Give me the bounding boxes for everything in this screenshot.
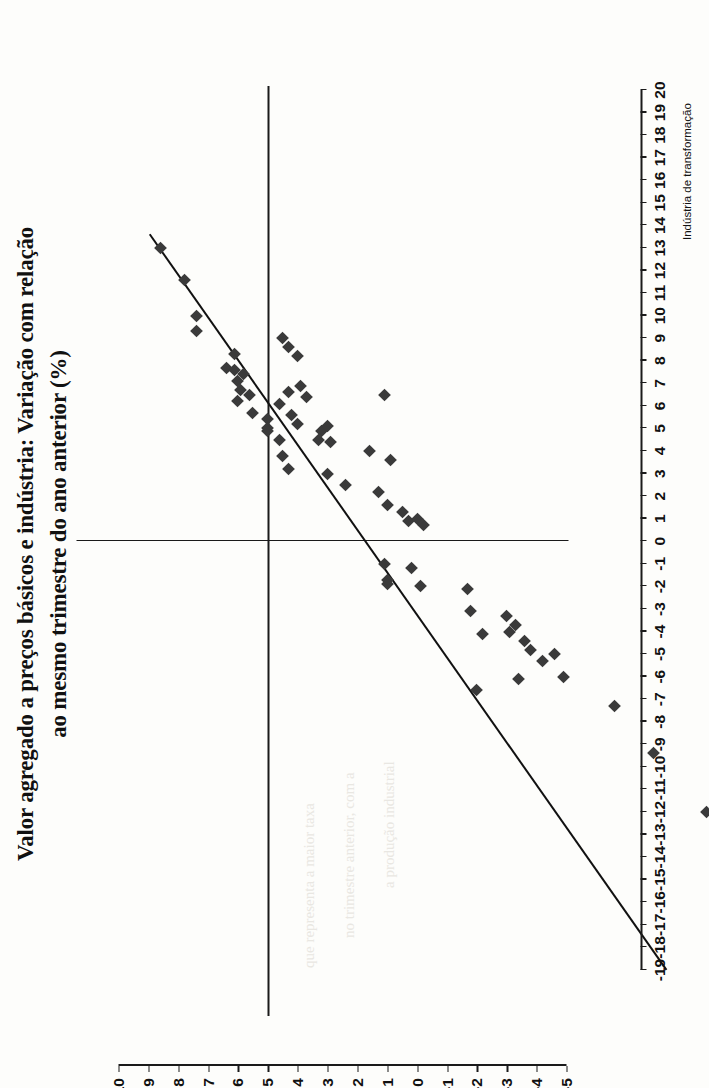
x-tick [640,563,646,564]
x-tick-label: 6 [651,402,667,411]
y-tick [387,1066,388,1072]
x-tick [640,969,646,970]
x-tick [640,337,646,338]
x-tick-label: -13 [651,823,667,845]
vertical-reference-line [76,540,568,542]
x-tick-label: -8 [651,715,667,729]
plot-inner [118,90,566,970]
x-tick [640,721,646,722]
x-tick-label: -17 [651,914,667,936]
x-tick [640,675,646,676]
x-tick [640,292,646,293]
data-point [607,700,620,713]
y-tick-label: -2 [469,1078,485,1088]
x-tick [640,269,646,270]
x-tick [640,382,646,383]
x-tick-label: 17 [651,149,667,166]
y-tick [476,1066,477,1072]
x-tick-label: -7 [651,692,667,706]
data-point [294,379,307,392]
x-tick [640,811,646,812]
data-point [189,325,202,338]
x-tick [640,766,646,767]
x-tick [640,698,646,699]
x-tick [640,202,646,203]
x-tick [640,224,646,225]
data-point [512,673,525,686]
data-point [464,605,477,618]
x-tick [640,585,646,586]
x-tick-label: -9 [651,737,667,751]
y-tick [447,1066,448,1072]
y-tick [118,1066,119,1072]
x-tick [640,179,646,180]
x-tick-label: 4 [651,447,667,456]
data-point [380,499,393,512]
data-point [282,386,295,399]
y-tick [208,1066,209,1072]
y-tick-label: -3 [499,1078,515,1088]
y-tick-label: 4 [289,1078,305,1088]
x-tick-label: 18 [651,127,667,144]
x-tick-label: -1 [651,557,667,571]
x-tick-label: -14 [651,846,667,868]
x-tick [640,495,646,496]
x-tick-label: 13 [651,239,667,256]
y-tick [237,1066,238,1072]
data-point [339,479,352,492]
x-tick-label: 7 [651,379,667,388]
x-tick [640,901,646,902]
data-point [476,627,489,640]
chart-title-line-2: ao mesmo trimestre do ano anterior (%) [41,0,74,1088]
chart-title: Valor agregado a preços básicos e indúst… [8,0,75,1088]
x-tick-label: -11 [651,779,667,801]
y-tick-label: 2 [349,1078,365,1088]
data-point [413,580,426,593]
x-tick [640,89,646,90]
x-tick-label: 20 [651,81,667,98]
data-point [246,406,259,419]
x-tick-label: 12 [651,262,667,279]
data-point [189,309,202,322]
data-point [383,454,396,467]
y-tick [297,1066,298,1072]
x-tick-label: 8 [651,356,667,365]
x-tick-label: -6 [651,670,667,684]
chart-stage: Valor agregado a preços básicos e indúst… [0,0,709,1088]
data-point [282,463,295,476]
y-tick-label: -5 [558,1078,574,1088]
x-tick [640,314,646,315]
x-tick-label: 19 [651,104,667,121]
x-tick-label: 5 [651,424,667,433]
data-point [324,436,337,449]
x-tick [640,924,646,925]
x-tick [640,608,646,609]
y-tick-label: 1 [379,1078,395,1088]
x-tick-label: 16 [651,172,667,189]
x-tick [640,946,646,947]
y-tick [536,1066,537,1072]
y-tick [267,1066,268,1072]
data-point [700,806,709,819]
x-tick [640,111,646,112]
x-tick-label: -18 [651,936,667,958]
x-tick [640,247,646,248]
x-tick [640,517,646,518]
data-point [273,397,286,410]
x-tick-label: 10 [651,307,667,324]
x-tick [640,878,646,879]
data-point [363,445,376,458]
x-tick [640,427,646,428]
data-point [371,485,384,498]
y-tick-label: 3 [319,1078,335,1088]
x-tick-label: -16 [651,891,667,913]
x-tick-label: 9 [651,334,667,343]
data-point [404,562,417,575]
y-tick-label: 9 [140,1078,156,1088]
x-tick [640,450,646,451]
data-point [276,449,289,462]
data-point [461,582,474,595]
x-tick-label: -4 [651,625,667,639]
x-tick [640,833,646,834]
x-axis-line [640,90,642,970]
